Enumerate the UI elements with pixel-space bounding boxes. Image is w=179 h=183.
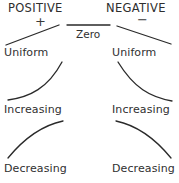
curve-glyphs	[0, 0, 179, 183]
glyph-negative-decreasing	[116, 121, 171, 158]
glyph-positive-increasing	[8, 62, 62, 100]
glyph-negative-increasing	[118, 62, 172, 101]
glyph-positive-decreasing	[8, 121, 63, 158]
glyph-positive-uniform	[6, 25, 59, 45]
glyph-negative-uniform	[117, 26, 171, 44]
slope-classification-figure: POSITIVE + NEGATIVE − Zero Uniform Incre…	[0, 0, 179, 183]
